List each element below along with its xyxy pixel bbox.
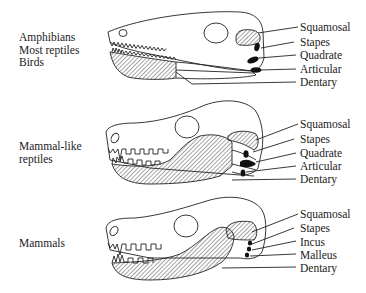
skull-mammal bbox=[106, 197, 298, 280]
group-line: reptiles bbox=[19, 153, 82, 166]
label-dentary: Dentary bbox=[300, 262, 337, 274]
label-quadrate: Quadrate bbox=[300, 147, 342, 159]
label-dentary: Dentary bbox=[300, 76, 337, 88]
group-label-amphibians: Amphibians Most reptiles Birds bbox=[19, 31, 79, 69]
label-squamosal: Squamosal bbox=[300, 118, 350, 130]
group-line: Mammals bbox=[19, 237, 65, 250]
label-stapes: Stapes bbox=[300, 133, 330, 145]
label-dentary: Dentary bbox=[300, 173, 337, 185]
label-stapes: Stapes bbox=[300, 36, 330, 48]
label-stapes: Stapes bbox=[300, 222, 330, 234]
label-articular: Articular bbox=[300, 160, 342, 172]
group-line: Amphibians bbox=[19, 31, 79, 44]
group-line: Birds bbox=[19, 56, 79, 69]
group-label-mammal-like-reptiles: Mammal-like reptiles bbox=[19, 140, 82, 165]
group-line: Most reptiles bbox=[19, 44, 79, 57]
label-squamosal: Squamosal bbox=[300, 208, 350, 220]
label-quadrate: Quadrate bbox=[300, 49, 342, 61]
skull-amphibian-reptile-bird bbox=[108, 12, 298, 84]
group-label-mammals: Mammals bbox=[19, 237, 65, 250]
skull-mammal-like-reptile bbox=[106, 101, 298, 184]
label-squamosal: Squamosal bbox=[300, 21, 350, 33]
label-articular: Articular bbox=[300, 63, 342, 75]
label-incus: Incus bbox=[300, 236, 325, 248]
group-line: Mammal-like bbox=[19, 140, 82, 153]
label-malleus: Malleus bbox=[300, 249, 337, 261]
